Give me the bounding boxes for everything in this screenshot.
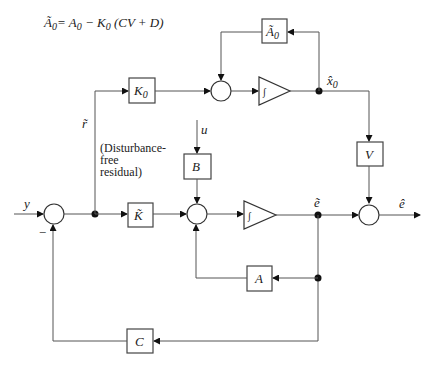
signal-x0-hat-label: x̂0 (326, 73, 338, 90)
annotation-line3: residual) (100, 165, 142, 179)
sum-junction-residual (44, 204, 64, 224)
block-k-tilde-label: K̃ (133, 208, 144, 223)
signal-u-label: u (201, 122, 208, 137)
block-b-label: B (192, 159, 200, 174)
signal-e-tilde-label: ẽ (314, 195, 321, 210)
block-c-label: C (135, 334, 144, 349)
sum-junction-output (359, 205, 379, 225)
minus-sign: − (38, 225, 47, 240)
sum-junction-top (211, 81, 231, 101)
signal-y-label: y (22, 196, 30, 211)
block-a-label: A (254, 271, 263, 286)
signal-r-tilde-label: r̃ (82, 116, 89, 131)
equation: Ã0= A0 − K0 (CV + D) (43, 15, 164, 32)
block-diagram: Ã0= A0 − K0 (CV + D) y − r̃ (Disturbance… (0, 0, 439, 367)
signal-e-hat-label: ê (399, 196, 405, 211)
sum-junction-middle (187, 204, 207, 224)
